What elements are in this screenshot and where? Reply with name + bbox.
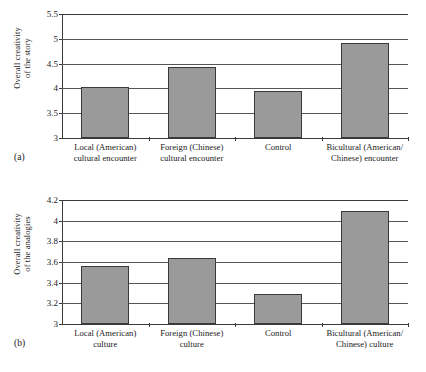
figure-container: Overall creativity of the story 33.544.5… [0, 0, 426, 372]
x-tick-mark-b-2 [235, 323, 236, 327]
x-axis-label-a-1: Local (American)cultural encounter [55, 142, 156, 164]
x-axis-label-b-4-line1: Bicultural (American/ [315, 328, 416, 339]
x-tick-mark-b-1 [149, 323, 150, 327]
x-axis-label-b-3-line1: Control [228, 328, 329, 339]
bar-a-1 [81, 87, 129, 138]
y-tick-label-a-4.5: 4.5 [47, 59, 58, 68]
y-axis-title-b-line2: of the analogies [22, 184, 32, 304]
y-tick-mark-b-3 [59, 324, 62, 325]
y-tick-mark-b-3.8 [59, 241, 62, 242]
chart-panel-b: Overall creativity of the analogies 33.2… [0, 186, 426, 372]
x-axis-label-a-3-line1: Control [228, 142, 329, 153]
y-tick-label-b-4: 4 [54, 216, 59, 225]
x-axis-label-a-1-line2: cultural encounter [55, 153, 156, 164]
y-tick-mark-a-4.5 [59, 64, 62, 65]
bar-a-4 [341, 43, 389, 138]
x-axis-label-b-1-line1: Local (American) [55, 328, 156, 339]
y-axis-line-a [62, 14, 63, 138]
panel-caption-a: (a) [14, 152, 25, 163]
x-axis-label-b-1-line2: culture [55, 339, 156, 350]
x-axis-label-a-4-line1: Bicultural (American/ [315, 142, 416, 153]
y-axis-title-a: Overall creativity of the story [12, 0, 32, 118]
x-axis-label-a-2: Foreign (Chinese)cultural encounter [142, 142, 243, 164]
x-tick-mark-b-end [408, 323, 409, 327]
y-tick-label-b-3.8: 3.8 [47, 237, 58, 246]
x-axis-label-b-2: Foreign (Chinese)culture [142, 328, 243, 350]
x-axis-label-b-4: Bicultural (American/Chinese) culture [315, 328, 416, 350]
gridline-a-5 [62, 39, 408, 40]
y-tick-label-a-5: 5 [54, 34, 59, 43]
x-axis-label-b-4-line2: Chinese) culture [315, 339, 416, 350]
y-tick-label-b-3.4: 3.4 [47, 278, 58, 287]
x-axis-labels-b: Local (American)cultureForeign (Chinese)… [62, 328, 408, 362]
x-axis-label-b-2-line2: culture [142, 339, 243, 350]
y-tick-mark-a-4 [59, 88, 62, 89]
x-axis-labels-a: Local (American)cultural encounterForeig… [62, 142, 408, 176]
y-tick-mark-b-3.6 [59, 262, 62, 263]
x-tick-mark-b-3 [322, 323, 323, 327]
y-tick-label-a-3.5: 3.5 [47, 109, 58, 118]
y-tick-mark-a-3 [59, 138, 62, 139]
x-axis-label-a-2-line1: Foreign (Chinese) [142, 142, 243, 153]
y-tick-mark-b-3.4 [59, 283, 62, 284]
x-axis-label-a-1-line1: Local (American) [55, 142, 156, 153]
plot-area-a: 33.544.555.5 [62, 14, 408, 138]
x-tick-mark-a-3 [322, 137, 323, 141]
y-tick-mark-a-5 [59, 39, 62, 40]
y-tick-mark-a-5.5 [59, 14, 62, 15]
x-axis-label-a-4: Bicultural (American/Chinese) encounter [315, 142, 416, 164]
y-tick-mark-b-3.2 [59, 303, 62, 304]
y-tick-label-a-5.5: 5.5 [47, 10, 58, 19]
gridline-b-4.2 [62, 200, 408, 201]
x-tick-mark-a-2 [235, 137, 236, 141]
bar-a-3 [254, 91, 302, 138]
bar-b-3 [254, 294, 302, 324]
bar-b-1 [81, 266, 129, 324]
y-tick-label-b-4.2: 4.2 [47, 196, 58, 205]
y-axis-title-b: Overall creativity of the analogies [12, 184, 32, 304]
y-axis-title-b-line1: Overall creativity [12, 184, 22, 304]
y-axis-title-a-line1: Overall creativity [12, 0, 22, 118]
y-tick-label-b-3.2: 3.2 [47, 299, 58, 308]
y-tick-label-a-4: 4 [54, 84, 59, 93]
gridline-a-5.5 [62, 14, 408, 15]
x-tick-mark-a-end [408, 137, 409, 141]
chart-panel-a: Overall creativity of the story 33.544.5… [0, 0, 426, 186]
x-axis-label-a-2-line2: cultural encounter [142, 153, 243, 164]
y-tick-mark-b-4.2 [59, 200, 62, 201]
y-tick-label-b-3.6: 3.6 [47, 258, 58, 267]
panel-caption-b: (b) [14, 338, 25, 349]
y-tick-mark-b-4 [59, 221, 62, 222]
plot-area-b: 33.23.43.63.844.2 [62, 200, 408, 324]
x-axis-label-a-3: Control [228, 142, 329, 153]
bar-b-4 [341, 211, 389, 324]
y-axis-title-a-line2: of the story [22, 0, 32, 118]
x-axis-label-b-2-line1: Foreign (Chinese) [142, 328, 243, 339]
x-axis-label-b-3: Control [228, 328, 329, 339]
x-axis-label-b-1: Local (American)culture [55, 328, 156, 350]
x-axis-label-a-4-line2: Chinese) encounter [315, 153, 416, 164]
bar-b-2 [168, 258, 216, 324]
x-tick-mark-a-1 [149, 137, 150, 141]
bar-a-2 [168, 67, 216, 138]
y-tick-mark-a-3.5 [59, 113, 62, 114]
